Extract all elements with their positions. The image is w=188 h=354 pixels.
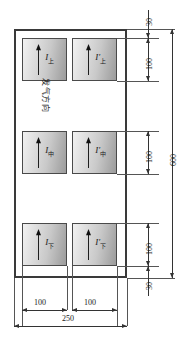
arrow-down-icon (146, 169, 150, 174)
cell-content: I′下 (73, 224, 116, 265)
sensor-cell-lower-right[interactable]: I′下 (72, 223, 117, 266)
arrow-up-icon (146, 131, 150, 136)
up-arrow-icon (34, 44, 43, 75)
cell-label-upper-right: I′上 (95, 53, 106, 64)
cell-label-lower-right: I′下 (95, 238, 106, 249)
sensor-cell-upper-right[interactable]: I′上 (72, 38, 117, 81)
sensor-cell-lower-left[interactable]: I下 (22, 223, 67, 266)
dimension-label-total-width: 250 (62, 315, 74, 323)
arrow-right-icon (62, 308, 67, 312)
extension-line-middle-top (117, 131, 159, 132)
arrow-up-icon (146, 266, 150, 271)
extension-line-col-left-start (22, 266, 23, 326)
arrow-down-icon (146, 76, 150, 81)
extension-line-upper-top (117, 38, 159, 39)
extension-line-lower-top (117, 223, 159, 224)
up-arrow-icon (34, 229, 43, 260)
cell-label-middle-left: I中 (45, 146, 54, 157)
extension-line-middle-bottom (117, 174, 159, 175)
dimension-label-row-middle: 100 (146, 151, 154, 163)
cell-content: I下 (23, 224, 66, 265)
dimension-label-top-margin: 30 (146, 18, 154, 26)
extension-line-frame-right (127, 278, 128, 326)
arrow-left-icon (14, 324, 19, 328)
cell-content: I中 (23, 132, 66, 173)
dimension-label-col-right: 100 (84, 299, 96, 307)
arrow-right-icon (112, 308, 117, 312)
dimension-line-col-left (22, 310, 67, 311)
engineering-drawing: I上 I′上 I中 (0, 0, 188, 354)
cell-label-middle-right: I′中 (95, 146, 106, 157)
extension-line-col-right-end (117, 266, 118, 326)
cell-label-lower-left: I下 (45, 238, 54, 249)
up-arrow-icon (84, 137, 93, 168)
cell-content: I上 (23, 39, 66, 80)
dimension-line-col-right (72, 310, 117, 311)
extension-line-col-right-start (72, 266, 73, 310)
extension-line-frame-bottom (127, 278, 175, 279)
up-arrow-icon (34, 137, 43, 168)
arrow-down-icon (170, 273, 174, 278)
arrow-up-icon (146, 223, 150, 228)
arrow-up-icon (146, 38, 150, 43)
dimension-label-row-upper: 100 (146, 58, 154, 70)
arrow-left-icon (22, 308, 27, 312)
flow-direction-annotation: 发气方向 (41, 78, 52, 112)
cell-label-upper-left: I上 (45, 53, 54, 64)
dimension-label-row-lower: 100 (146, 243, 154, 255)
extension-line-frame-left (14, 278, 15, 326)
extension-line-frame-top (127, 29, 175, 30)
sensor-cell-middle-right[interactable]: I′中 (72, 131, 117, 174)
arrow-left-icon (72, 308, 77, 312)
dimension-label-total-height: 600 (170, 154, 178, 166)
sensor-cell-upper-left[interactable]: I上 (22, 38, 67, 81)
up-arrow-icon (84, 44, 93, 75)
cell-content: I′中 (73, 132, 116, 173)
arrow-right-icon (122, 324, 127, 328)
arrow-up-icon (170, 29, 174, 34)
dimension-label-col-left: 100 (34, 299, 46, 307)
cell-content: I′上 (73, 39, 116, 80)
sensor-cell-middle-left[interactable]: I中 (22, 131, 67, 174)
extension-line-lower-bottom (117, 266, 159, 267)
dimension-line-total-width (14, 326, 127, 327)
extension-line-upper-bottom (117, 81, 159, 82)
dimension-label-bottom-margin: 30 (146, 282, 154, 290)
up-arrow-icon (84, 229, 93, 260)
extension-line-col-left-end (67, 266, 68, 310)
